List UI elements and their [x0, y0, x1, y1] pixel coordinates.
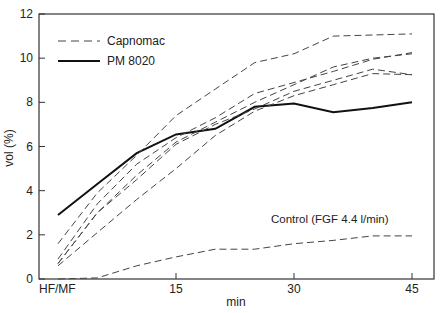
x-tick-label: HF/MF [39, 282, 76, 296]
control-annotation: Control (FGF 4.4 l/min) [271, 213, 389, 225]
legend-label-pm8020: PM 8020 [107, 54, 155, 68]
plot-frame [39, 14, 434, 279]
y-tick-label: 6 [26, 140, 33, 154]
y-axis-label: vol (%) [2, 129, 16, 166]
series-line-5 [58, 69, 412, 263]
series-line-1 [58, 102, 412, 215]
series-line-4 [58, 54, 412, 264]
legend-label-capnomac: Capnomac [107, 34, 165, 48]
series-line-3 [58, 53, 412, 260]
y-tick-label: 8 [26, 95, 33, 109]
series-line-7 [58, 236, 412, 279]
x-axis: HF/MF153045 [39, 273, 419, 296]
legend: Capnomac PM 8020 [58, 34, 165, 68]
y-axis: 024681012 [20, 7, 45, 286]
x-axis-label: min [226, 295, 245, 309]
line-chart: 024681012 HF/MF153045 vol (%) min Capnom… [0, 0, 441, 313]
series-line-6 [58, 74, 412, 266]
x-tick-label: 45 [405, 282, 419, 296]
y-tick-label: 0 [26, 272, 33, 286]
y-tick-label: 10 [20, 51, 34, 65]
y-tick-label: 2 [26, 228, 33, 242]
y-tick-label: 12 [20, 7, 34, 21]
y-tick-label: 4 [26, 184, 33, 198]
x-tick-label: 15 [169, 282, 183, 296]
x-tick-label: 30 [287, 282, 301, 296]
series-lines [58, 34, 412, 279]
